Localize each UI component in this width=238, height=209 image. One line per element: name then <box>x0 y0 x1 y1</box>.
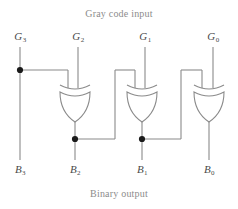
junction-dot-b2 <box>72 136 78 142</box>
xor-gate-1-arc <box>60 85 90 89</box>
junction-dot-b1 <box>139 136 145 142</box>
input-label-g1: G1 <box>139 30 150 42</box>
xor-gate-1-body <box>60 92 90 122</box>
input-label-g2: G2 <box>72 30 83 42</box>
gray-to-binary-converter-diagram: Gray code input <box>0 0 238 209</box>
xor-gate-2-arc <box>127 85 157 89</box>
xor-gate-2-body <box>127 92 157 122</box>
input-label-g3: G3 <box>14 30 25 42</box>
input-label-g0: G0 <box>207 30 218 42</box>
xor-gate-3-body <box>194 92 224 122</box>
junction-dot-g3 <box>17 67 23 73</box>
output-label-b2: B2 <box>70 163 80 175</box>
output-label-b1: B1 <box>137 163 147 175</box>
diagram-bottom-caption: Binary output <box>0 188 238 199</box>
output-label-b0: B0 <box>204 163 214 175</box>
xor-gate-3-arc <box>194 85 224 89</box>
circuit-schematic <box>0 0 238 209</box>
output-label-b3: B3 <box>15 163 25 175</box>
